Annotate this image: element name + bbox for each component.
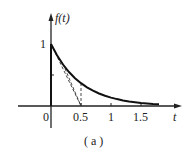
y-axis-label: f(t)	[55, 11, 70, 25]
x-axis-label: t	[173, 110, 177, 124]
y-tick-label-1: 1	[40, 37, 46, 51]
exponential-decay-chart: f(t) t 1 0 0.5 1 1.5 ( a )	[0, 0, 190, 151]
y-axis-arrow-icon	[49, 13, 54, 21]
figure-caption: ( a )	[84, 134, 103, 148]
x-axis-arrow-icon	[174, 104, 182, 109]
x-tick-label-05: 0.5	[73, 110, 88, 124]
origin-label: 0	[43, 110, 49, 124]
x-tick-label-15: 1.5	[133, 110, 148, 124]
x-tick-label-1: 1	[108, 110, 114, 124]
